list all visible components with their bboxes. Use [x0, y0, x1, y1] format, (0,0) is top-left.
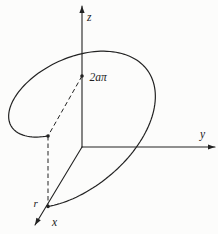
- figure-container: z y x 2aπ r: [0, 0, 218, 234]
- z-point-dot: [80, 74, 84, 78]
- y-axis-label: y: [199, 128, 206, 141]
- z-axis-label: z: [86, 11, 92, 23]
- helix-diagram: z y x 2aπ r: [0, 0, 218, 234]
- pitch-height-label: 2aπ: [90, 71, 109, 83]
- helix-end-dot: [46, 134, 50, 138]
- x-axis-label: x: [51, 216, 58, 228]
- radius-label: r: [34, 197, 39, 209]
- helix-start-dot: [46, 205, 50, 209]
